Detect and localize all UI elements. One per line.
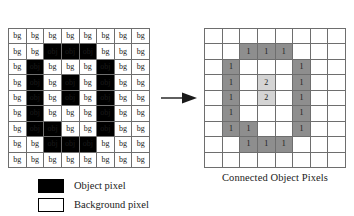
background-pixel-cell: bg	[62, 106, 80, 121]
background-pixel-cell	[276, 60, 294, 75]
background-pixel-cell: bg	[80, 60, 98, 75]
background-pixel-cell: bg	[115, 75, 133, 90]
background-pixel-cell: bg	[27, 137, 45, 152]
labeled-pixel-cell: 2	[258, 91, 276, 106]
background-pixel-cell	[205, 44, 223, 59]
object-pixel-cell: obj	[80, 137, 98, 152]
background-pixel-cell	[258, 60, 276, 75]
background-pixel-cell	[293, 44, 311, 59]
background-pixel-cell	[223, 29, 241, 44]
background-pixel-cell	[311, 153, 329, 168]
background-pixel-cell	[328, 29, 346, 44]
background-pixel-cell	[328, 44, 346, 59]
background-pixel-cell: bg	[62, 122, 80, 137]
background-pixel-cell: bg	[9, 153, 27, 168]
background-pixel-cell	[328, 122, 346, 137]
background-pixel-cell: bg	[115, 106, 133, 121]
object-pixel-cell: obj	[27, 91, 45, 106]
object-pixel-cell: obj	[27, 122, 45, 137]
background-pixel-cell: bg	[97, 29, 115, 44]
background-pixel-cell	[311, 29, 329, 44]
binary-image-grid: bgbgbgbgbgbgbgbgbgbgobjobjobjbgbgbgbgobj…	[8, 28, 150, 168]
background-pixel-cell	[258, 153, 276, 168]
labeled-pixel-cell: 1	[293, 91, 311, 106]
background-pixel-cell: bg	[9, 75, 27, 90]
object-pixel-cell: obj	[97, 60, 115, 75]
background-pixel-cell: bg	[80, 122, 98, 137]
background-pixel-cell: bg	[115, 29, 133, 44]
background-pixel-cell	[276, 153, 294, 168]
background-pixel-cell: bg	[80, 106, 98, 121]
figure-canvas: bgbgbgbgbgbgbgbgbgbgobjobjobjbgbgbgbgobj…	[0, 0, 354, 216]
labeled-pixel-cell: 1	[293, 122, 311, 137]
background-pixel-cell	[328, 75, 346, 90]
background-pixel-cell: bg	[44, 29, 62, 44]
labeled-pixel-cell: 1	[276, 44, 294, 59]
background-pixel-cell	[311, 106, 329, 121]
background-pixel-cell: bg	[27, 153, 45, 168]
object-pixel-cell: obj	[27, 75, 45, 90]
background-pixel-cell: bg	[115, 122, 133, 137]
legend-item-label: Object pixel	[74, 180, 126, 191]
background-pixel-cell	[293, 29, 311, 44]
legend-item: Object pixel	[38, 176, 198, 195]
background-pixel-cell	[258, 122, 276, 137]
legend-item: Background pixel	[38, 195, 198, 214]
background-pixel-cell	[293, 153, 311, 168]
background-pixel-cell: bg	[132, 60, 150, 75]
labeled-pixel-cell: 1	[223, 60, 241, 75]
labeled-pixel-cell: 1	[240, 137, 258, 152]
background-pixel-cell: bg	[9, 137, 27, 152]
labeled-pixel-cell: 1	[223, 75, 241, 90]
background-pixel-cell: bg	[80, 29, 98, 44]
background-pixel-cell	[205, 106, 223, 121]
background-pixel-cell	[311, 60, 329, 75]
background-pixel-cell	[328, 60, 346, 75]
legend-item-label: Background pixel	[74, 199, 149, 210]
background-pixel-cell: bg	[132, 91, 150, 106]
object-pixel-cell: obj	[62, 91, 80, 106]
background-pixel-cell	[311, 91, 329, 106]
background-pixel-cell: bg	[115, 153, 133, 168]
object-pixel-cell: obj	[97, 91, 115, 106]
background-pixel-cell	[205, 29, 223, 44]
object-pixel-cell: obj	[97, 106, 115, 121]
labeled-pixel-cell: 1	[293, 75, 311, 90]
background-pixel-cell: bg	[9, 91, 27, 106]
background-pixel-cell: bg	[62, 60, 80, 75]
labeled-pixel-cell: 1	[240, 122, 258, 137]
labeled-pixel-cell: 2	[258, 75, 276, 90]
object-pixel-cell: obj	[97, 75, 115, 90]
background-pixel-cell: bg	[44, 60, 62, 75]
background-pixel-cell	[205, 153, 223, 168]
background-pixel-cell	[205, 122, 223, 137]
labeled-pixel-cell: 1	[258, 137, 276, 152]
background-pixel-cell: bg	[9, 44, 27, 59]
background-pixel-cell: bg	[62, 29, 80, 44]
background-pixel-cell	[205, 137, 223, 152]
background-pixel-cell: bg	[132, 137, 150, 152]
background-pixel-cell	[293, 137, 311, 152]
background-pixel-cell: bg	[44, 106, 62, 121]
background-pixel-cell	[240, 106, 258, 121]
background-pixel-cell: bg	[97, 153, 115, 168]
labeled-pixel-cell: 1	[293, 60, 311, 75]
object-pixel-cell: obj	[27, 106, 45, 121]
background-pixel-cell	[240, 29, 258, 44]
background-pixel-cell: bg	[62, 153, 80, 168]
legend: Object pixelBackground pixel	[38, 176, 198, 214]
background-pixel-cell: bg	[44, 75, 62, 90]
background-pixel-cell	[311, 75, 329, 90]
background-pixel-cell: bg	[132, 75, 150, 90]
labeled-pixel-cell: 1	[258, 44, 276, 59]
background-pixel-cell	[328, 106, 346, 121]
labeled-pixel-cell: 1	[223, 122, 241, 137]
background-pixel-cell: bg	[132, 106, 150, 121]
background-pixel-cell: bg	[97, 44, 115, 59]
background-pixel-cell	[205, 91, 223, 106]
background-pixel-cell	[258, 106, 276, 121]
background-pixel-cell: bg	[80, 75, 98, 90]
object-pixel-cell: obj	[62, 44, 80, 59]
background-pixel-cell	[276, 75, 294, 90]
background-pixel-cell	[276, 106, 294, 121]
